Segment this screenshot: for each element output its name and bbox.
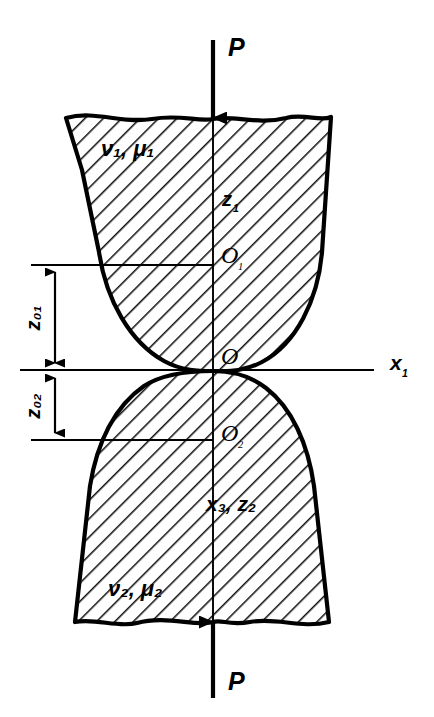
- lower-axes-label: x₃, z₂: [205, 492, 256, 515]
- svg-text:1: 1: [233, 202, 239, 214]
- point-o-label: O: [221, 343, 238, 369]
- svg-text:1: 1: [402, 367, 408, 379]
- diagram-canvas: P P ν₁, μ₁ ν₂, μ₂ z 1 O 1 O O 2 x 1 x₃: [0, 0, 434, 717]
- svg-text:2: 2: [238, 439, 244, 450]
- upper-material-label: ν₁, μ₁: [101, 136, 154, 161]
- lower-material-label: ν₂, μ₂: [108, 576, 163, 601]
- contact-mechanics-diagram: P P ν₁, μ₁ ν₂, μ₂ z 1 O 1 O O 2 x 1 x₃: [0, 0, 434, 717]
- svg-text:O: O: [221, 242, 238, 268]
- dimension-z02-label: z₀₂: [22, 393, 44, 420]
- top-force-label: P: [228, 33, 245, 61]
- svg-text:z: z: [221, 188, 232, 210]
- svg-text:x: x: [389, 351, 403, 374]
- svg-text:1: 1: [238, 261, 243, 272]
- bottom-force-label: P: [228, 667, 245, 695]
- svg-text:O: O: [221, 420, 238, 446]
- dimension-z01-label: z₀₁: [22, 306, 44, 332]
